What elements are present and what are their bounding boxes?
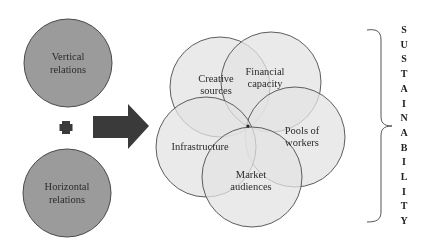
letter: I xyxy=(402,98,406,109)
letter: A xyxy=(400,83,408,94)
letter: T xyxy=(401,68,408,79)
curly-bracket xyxy=(367,30,392,222)
sustainability-word: S U S T A I N A B I L I T Y xyxy=(400,24,408,226)
letter: I xyxy=(402,156,406,167)
letter: L xyxy=(401,171,408,182)
letter: Y xyxy=(400,215,408,226)
creative-sources-label-1: Creative xyxy=(198,73,234,84)
market-audiences-label-2: audiences xyxy=(230,181,271,192)
horizontal-relations-label-2: relations xyxy=(49,194,85,205)
letter: A xyxy=(400,127,408,138)
vertical-relations-label-2: relations xyxy=(50,64,86,75)
letter: N xyxy=(400,112,408,123)
financial-capacity-label-1: Financial xyxy=(245,66,284,77)
letter: I xyxy=(402,186,406,197)
plus-icon xyxy=(60,121,73,134)
pools-of-workers-label-2: workers xyxy=(285,137,319,148)
flower-center-dot xyxy=(246,124,249,127)
letter: B xyxy=(401,142,408,153)
pools-of-workers-label-1: Pools of xyxy=(285,125,320,136)
letter: S xyxy=(401,24,407,35)
horizontal-relations-node: Horizontal relations xyxy=(23,149,111,237)
sustainability-diagram: Vertical relations Horizontal relations … xyxy=(0,0,429,248)
creative-sources-label-2: sources xyxy=(200,85,232,96)
letter: T xyxy=(401,200,408,211)
market-audiences-label-1: Market xyxy=(236,169,266,180)
infrastructure-label: Infrastructure xyxy=(171,141,228,152)
financial-capacity-label-2: capacity xyxy=(248,78,284,89)
letter: S xyxy=(401,53,407,64)
vertical-relations-node: Vertical relations xyxy=(24,19,112,107)
vertical-relations-label-1: Vertical xyxy=(52,51,85,62)
arrow-right-icon xyxy=(93,104,149,149)
horizontal-relations-label-1: Horizontal xyxy=(45,181,90,192)
letter: U xyxy=(400,39,407,50)
